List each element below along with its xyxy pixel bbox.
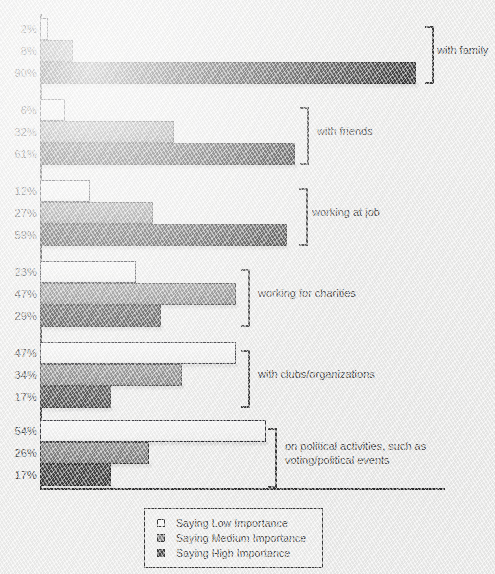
bar-low-5 [40,420,266,442]
legend-item-medium[interactable]: Saying Medium Importance [157,530,312,545]
legend-swatch-high-icon [157,549,165,557]
bar-low-4 [40,342,236,364]
value-label: 47% [0,288,37,300]
value-label: 61% [0,148,37,160]
value-label: 29% [0,310,37,322]
group-label-1: with friends [317,124,373,138]
bar-medium-2 [40,202,153,224]
bar-high-1 [40,143,295,165]
group-bracket-4 [241,350,250,408]
group-label-4: with clubs/organizations [258,367,375,381]
value-label: 17% [0,469,37,481]
bar-medium-4 [40,364,182,386]
legend-item-high[interactable]: Saying High Importance [157,545,312,560]
bar-low-3 [40,261,136,283]
bar-medium-5 [40,442,149,464]
value-label: 90% [0,67,37,79]
group-bracket-1 [300,107,309,165]
bar-low-2 [40,180,90,202]
value-label: 23% [0,266,37,278]
value-label: 32% [0,126,37,138]
legend-label: Saying High Importance [176,547,290,559]
legend-item-low[interactable]: Saying Low Importance [157,515,312,530]
group-label-5: on political activities, such as voting/… [285,439,426,467]
value-label: 59% [0,229,37,241]
value-label: 2% [0,23,37,35]
value-label: 47% [0,347,37,359]
value-label: 12% [0,185,37,197]
bar-high-2 [40,224,287,246]
legend-swatch-medium-icon [157,534,165,542]
bar-high-3 [40,305,161,327]
y-axis-line [40,14,42,490]
legend-label: Saying Low Importance [176,517,288,529]
bar-low-0 [40,18,48,40]
bar-medium-3 [40,283,236,305]
legend-label: Saying Medium Importance [176,532,306,544]
bar-chart: 2%8%90%6%32%61%12%27%59%23%47%29%47%34%1… [0,0,495,574]
bar-high-4 [40,386,111,408]
legend-swatch-low-icon [157,519,165,527]
group-bracket-5 [268,428,277,488]
group-bracket-2 [299,188,308,246]
value-label: 17% [0,391,37,403]
value-label: 27% [0,207,37,219]
group-label-0: with family [437,43,488,57]
bar-medium-1 [40,121,174,143]
group-label-2: working at job [312,205,380,219]
bar-high-0 [40,62,416,84]
group-bracket-0 [425,26,434,84]
chart-legend: Saying Low ImportanceSaying Medium Impor… [144,508,323,568]
value-label: 34% [0,369,37,381]
value-label: 26% [0,447,37,459]
value-label: 8% [0,45,37,57]
bar-high-5 [40,464,111,486]
bar-medium-0 [40,40,73,62]
value-label: 54% [0,425,37,437]
group-bracket-3 [241,269,250,327]
bar-low-1 [40,99,65,121]
value-label: 6% [0,104,37,116]
group-label-3: working for charities [258,286,356,300]
